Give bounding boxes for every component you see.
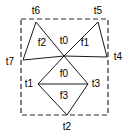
vertex-label-t0: t0 [60, 35, 69, 46]
vertex-label-t5: t5 [94, 5, 103, 16]
face-label-f0: f0 [60, 68, 69, 79]
vertex-label-t1: t1 [25, 78, 34, 89]
vertex-label-t2: t2 [63, 121, 72, 132]
mesh-edge-t6-t7 [23, 22, 36, 60]
face-label-f2: f2 [38, 37, 47, 48]
face-label-f3: f3 [60, 90, 69, 101]
face-label-group: f0f1f2f3 [38, 37, 90, 101]
vertex-label-t3: t3 [92, 78, 101, 89]
mesh-edge-t5-t4 [98, 22, 107, 57]
mesh-edge-t3-t2 [67, 84, 88, 115]
vertex-label-t4: t4 [114, 51, 123, 62]
mesh-edge-t7-t0 [23, 56, 64, 60]
mesh-diagram-canvas: f0f1f2f3 t0t1t2t3t4t5t6t7 [0, 0, 129, 137]
face-label-f1: f1 [81, 37, 90, 48]
mesh-diagram-figure: f0f1f2f3 t0t1t2t3t4t5t6t7 [0, 0, 129, 137]
vertex-label-t6: t6 [32, 5, 41, 16]
vertex-label-t7: t7 [6, 56, 15, 67]
mesh-edge-t4-t0 [64, 56, 107, 57]
